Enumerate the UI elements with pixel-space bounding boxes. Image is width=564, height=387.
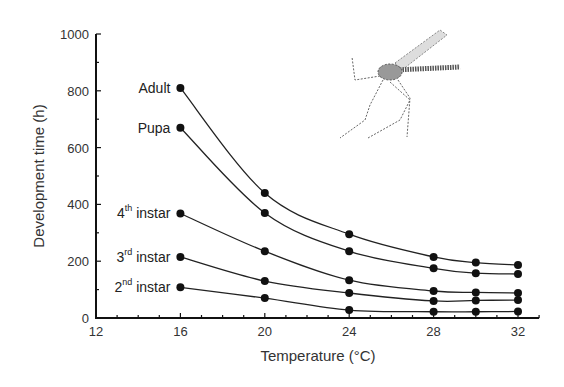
data-point bbox=[514, 296, 522, 304]
x-axis-title: Temperature (°C) bbox=[260, 347, 375, 364]
data-point bbox=[430, 308, 438, 316]
y-axis-title: Development time (h) bbox=[30, 104, 47, 247]
data-point bbox=[261, 247, 269, 255]
data-point bbox=[472, 259, 480, 267]
series-line bbox=[180, 88, 518, 265]
data-point bbox=[472, 269, 480, 277]
series-label: 3rd instar bbox=[116, 247, 170, 265]
data-point bbox=[261, 277, 269, 285]
series-label: Adult bbox=[138, 80, 170, 96]
data-point bbox=[430, 264, 438, 272]
y-tick-label: 200 bbox=[67, 254, 89, 269]
data-point bbox=[430, 287, 438, 295]
data-point bbox=[176, 209, 184, 217]
data-point bbox=[514, 261, 522, 269]
data-point bbox=[472, 308, 480, 316]
data-point bbox=[514, 307, 522, 315]
data-point bbox=[345, 230, 353, 238]
x-tick-label: 24 bbox=[342, 324, 356, 339]
series-labels: AdultPupa4th instar3rd instar2nd instar bbox=[114, 80, 170, 295]
data-point bbox=[261, 294, 269, 302]
data-point bbox=[345, 276, 353, 284]
data-point bbox=[472, 288, 480, 296]
x-tick-label: 32 bbox=[511, 324, 525, 339]
data-point bbox=[176, 84, 184, 92]
mosquito-illustration bbox=[340, 30, 460, 138]
data-point bbox=[514, 270, 522, 278]
y-tick-label: 600 bbox=[67, 141, 89, 156]
data-point bbox=[176, 253, 184, 261]
data-point bbox=[345, 289, 353, 297]
x-tick-label: 12 bbox=[89, 324, 103, 339]
series-label: 2nd instar bbox=[114, 277, 170, 295]
data-point bbox=[345, 247, 353, 255]
data-point bbox=[261, 209, 269, 217]
data-point bbox=[261, 189, 269, 197]
data-point bbox=[345, 306, 353, 314]
series-label: 4th instar bbox=[117, 203, 171, 221]
y-tick-label: 800 bbox=[67, 84, 89, 99]
series-label: Pupa bbox=[138, 120, 171, 136]
x-tick-label: 20 bbox=[258, 324, 272, 339]
data-point bbox=[176, 283, 184, 291]
data-point bbox=[430, 253, 438, 261]
x-tick-label: 16 bbox=[173, 324, 187, 339]
data-point bbox=[514, 289, 522, 297]
data-point bbox=[176, 124, 184, 132]
development-time-chart: 02004006008001000121620242832 AdultPupa4… bbox=[0, 0, 564, 387]
y-tick-label: 400 bbox=[67, 197, 89, 212]
series-lines bbox=[176, 84, 522, 316]
data-point bbox=[472, 296, 480, 304]
y-tick-label: 1000 bbox=[60, 27, 89, 42]
data-point bbox=[430, 297, 438, 305]
x-tick-label: 28 bbox=[426, 324, 440, 339]
